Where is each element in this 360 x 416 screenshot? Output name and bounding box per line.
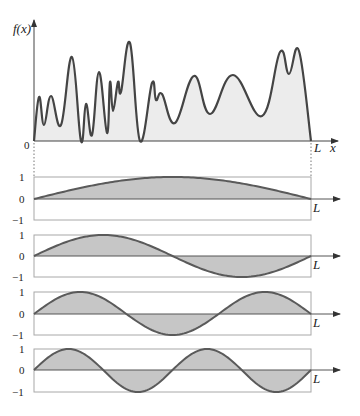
tick-label-1: 1 (19, 286, 25, 298)
tick-label-neg1: −1 (12, 329, 24, 341)
mode-panel-3: 10−1L (12, 286, 340, 341)
origin-label: 0 (24, 139, 30, 151)
tick-label-neg1: −1 (12, 271, 24, 283)
sine-mode-panels: 10−1L10−1L10−1L10−1L (12, 171, 340, 398)
x-axis-label: x (329, 140, 336, 155)
tick-label-neg1: −1 (12, 214, 24, 226)
y-axis-label: f(x) (13, 21, 31, 36)
end-label-L: L (313, 140, 321, 155)
mode-panel-1: 10−1L (12, 171, 340, 226)
tick-label-0: 0 (19, 193, 25, 205)
tick-label-1: 1 (19, 229, 25, 241)
function-plot: f(x) 0 L x (13, 20, 338, 177)
end-label-L: L (312, 315, 320, 330)
mode-panel-2: 10−1L (12, 229, 340, 283)
tick-label-0: 0 (19, 308, 25, 320)
mode-panel-4: 10−1L (12, 343, 340, 398)
end-label-L: L (312, 200, 320, 215)
end-label-L: L (312, 371, 320, 386)
end-label-L: L (312, 257, 320, 272)
tick-label-neg1: −1 (12, 386, 24, 398)
tick-label-0: 0 (19, 364, 25, 376)
tick-label-1: 1 (19, 171, 25, 183)
fourier-sine-modes-diagram: f(x) 0 L x 10−1L10−1L10−1L10−1L (0, 0, 360, 416)
tick-label-1: 1 (19, 343, 25, 355)
tick-label-0: 0 (19, 250, 25, 262)
